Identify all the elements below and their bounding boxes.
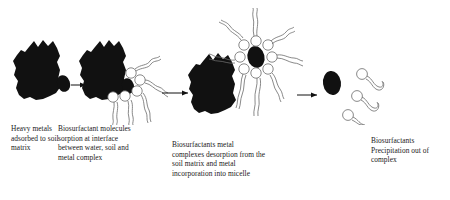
stage-3-group: [188, 8, 303, 116]
biosurfactant-molecule: [108, 68, 145, 102]
soil-matrix-blob: [188, 53, 236, 114]
metal-core: [245, 44, 266, 69]
stage-2-group: [79, 40, 168, 125]
micelle-head-ring: [235, 36, 277, 78]
soil-matrix-blob: [79, 40, 127, 100]
diagram-canvas: Heavy metals adsorbed to soil matrix Bio…: [0, 0, 450, 200]
free-metal-particle: [321, 70, 342, 96]
stage-3-caption: Biosurfactants metal complexes desorptio…: [172, 140, 290, 178]
stage-4-caption: Biosurfactants Precipitation out of comp…: [371, 136, 445, 165]
heavy-metal-particle: [55, 73, 73, 93]
stage-1-group: [13, 40, 72, 100]
soil-matrix-blob: [13, 40, 61, 100]
stage-4-group: [321, 69, 383, 125]
biosurfactant-tail: [113, 56, 168, 125]
heavy-metal-particle: [120, 77, 136, 96]
diagram-illustration: [0, 0, 450, 125]
micelle: [209, 8, 303, 116]
free-biosurfactant-molecule: [343, 69, 384, 125]
stage-2-caption: Biosurfactant molecules sorption at inte…: [58, 124, 164, 162]
micelle-tails: [209, 8, 303, 116]
